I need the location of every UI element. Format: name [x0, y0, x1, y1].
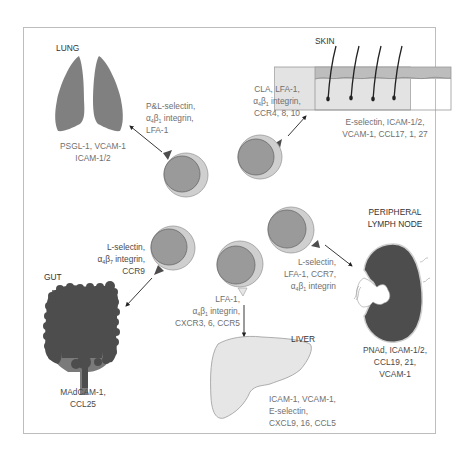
- lymphocyte-icon-lung: [163, 150, 208, 197]
- lymph-node-receptor-integrin: α4β1 integrin: [266, 280, 336, 292]
- liver-receptor-integrin: α4β1 integrin,: [161, 305, 240, 317]
- gut-receptor-integrin: α4β7 integrin,: [70, 253, 145, 265]
- gut-ligands: MAdCAM-1, CCL25: [48, 386, 118, 410]
- liver-ligands: ICAM-1, VCAM-1, E-selectin, CXCL9, 16, C…: [269, 393, 336, 429]
- liver-title: LIVER: [291, 333, 315, 345]
- lymphocyte-icon-gut: [151, 226, 195, 275]
- lymph-node-icon: [354, 244, 430, 342]
- skin-receptors: CLA, LFA-1, α4β1 integrin, CCR4, 8, 10: [233, 83, 321, 119]
- lymphocyte-icon-liver: [217, 241, 263, 296]
- gut-icon: [43, 281, 120, 395]
- skin-title: SKIN: [315, 35, 335, 47]
- lymph-node-ligands: PNAd, ICAM-1/2, CCL19, 21, VCAM-1: [351, 344, 439, 380]
- lymphocyte-icon-skin: [238, 135, 282, 179]
- lung-receptors: P&L-selectin, α4β1 integrin, LFA-1: [146, 100, 195, 136]
- skin-ligands: E-selectin, ICAM-1/2, VCAM-1, CCL17, 1, …: [319, 116, 451, 140]
- gut-receptors: L-selectin, α4β7 integrin, CCR9: [70, 241, 145, 277]
- gut-title: GUT: [44, 271, 62, 283]
- lung-ligands: PSGL-1, VCAM-1 ICAM-1/2: [60, 140, 127, 164]
- liver-receptors: LFA-1, α4β1 integrin, CXCR3, 6, CCR5: [161, 293, 240, 329]
- lung-icon: [55, 56, 123, 131]
- lymph-node-receptors: L-selectin, LFA-1, CCR7, α4β1 integrin: [266, 256, 336, 292]
- lymph-node-title: PERIPHERAL LYMPH NODE: [355, 206, 434, 230]
- lung-title: LUNG: [56, 42, 79, 54]
- skin-receptor-integrin: α4β1 integrin,: [233, 95, 321, 107]
- lung-receptor-integrin: α4β1 integrin,: [146, 112, 195, 124]
- lymphocyte-icon-lymph-node: [268, 207, 320, 253]
